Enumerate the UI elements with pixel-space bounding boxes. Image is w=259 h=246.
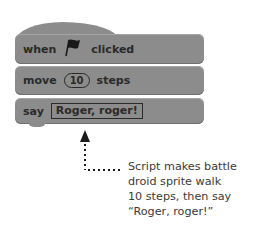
caption-line: Script makes battle (128, 159, 237, 174)
caption-line: 10 steps, then say (128, 189, 237, 204)
caption-line: droid sprite walk (128, 174, 237, 189)
annotation-caption: Script makes battle droid sprite walk 10… (128, 159, 237, 219)
caption-line: “Roger, roger!” (128, 204, 237, 219)
